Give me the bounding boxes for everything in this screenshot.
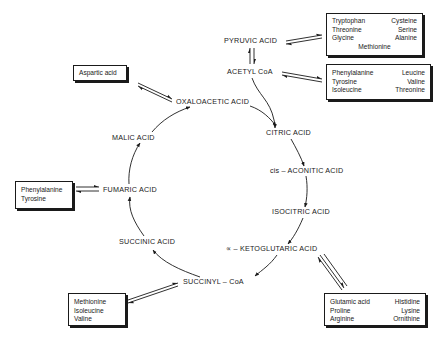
box-row: ArginineOrnithine <box>325 315 425 324</box>
box-row: TryptophanCysteine <box>327 17 422 26</box>
krebs-cycle-diagram: PYRUVIC ACID ACETYL CoA OXALOACETIC ACID… <box>0 0 444 345</box>
box-row: IsoleucineThreonine <box>327 86 430 95</box>
edge-succinyl-to-succinic <box>153 250 200 277</box>
edge-succinic-to-fumaric <box>130 197 144 236</box>
box-row: TyrosineValine <box>327 78 430 87</box>
node-ketoglutaric-acid: ∝ – KETOGLUTARIC ACID <box>226 245 317 252</box>
box-row: ThreonineSerine <box>327 26 422 35</box>
box-row: ProlineLysine <box>325 307 425 316</box>
edge-isocitric-to-ketoglutaric <box>288 218 303 244</box>
node-cis-aconitic-acid: cis – ACONITIC ACID <box>270 167 343 174</box>
node-fumaric-acid: FUMARIC ACID <box>103 186 157 193</box>
amino-acid-box-fumaric: Phenylalanine Tyrosine <box>15 181 73 209</box>
node-isocitric-acid: ISOCITRIC ACID <box>272 208 330 215</box>
box-row: Glutamic acidHistidine <box>325 298 425 307</box>
node-oxaloacetic-acid: OXALOACETIC ACID <box>176 98 249 105</box>
box-footer: Methionine <box>327 43 422 52</box>
amino-acid-box-ketoglutaric: Glutamic acidHistidine ProlineLysine Arg… <box>324 293 426 326</box>
node-pyruvic-acid: PYRUVIC ACID <box>224 37 277 44</box>
amino-acid-box-pyruvic: TryptophanCysteine ThreonineSerine Glyci… <box>326 13 423 56</box>
amino-acid-box-succinyl: Methionine Isoleucine Valine <box>68 293 126 326</box>
edge-oxaloacetic-to-citric <box>250 106 276 126</box>
edge-malic-to-oxaloacetic <box>152 107 190 132</box>
node-acetyl-coa: ACETYL CoA <box>227 68 273 75</box>
node-citric-acid: CITRIC ACID <box>266 129 311 136</box>
box-row: PhenylalanineLeucine <box>327 69 430 78</box>
box-row: GlycineAlanine <box>327 34 422 43</box>
edge-cisaconitic-to-isocitric <box>305 176 307 207</box>
node-succinic-acid: SUCCINIC ACID <box>119 238 175 245</box>
node-malic-acid: MALIC ACID <box>112 134 155 141</box>
edge-citric-to-cisaconitic <box>291 139 304 166</box>
amino-acid-box-acetyl: PhenylalanineLeucine TyrosineValine Isol… <box>326 64 431 100</box>
node-succinyl-coa: SUCCINYL – CoA <box>183 278 244 285</box>
edge-ketoglutaric-to-succinyl <box>255 255 277 276</box>
edge-fumaric-to-malic <box>129 143 140 184</box>
amino-acid-box-aspartic: Aspartic acid <box>73 65 127 81</box>
